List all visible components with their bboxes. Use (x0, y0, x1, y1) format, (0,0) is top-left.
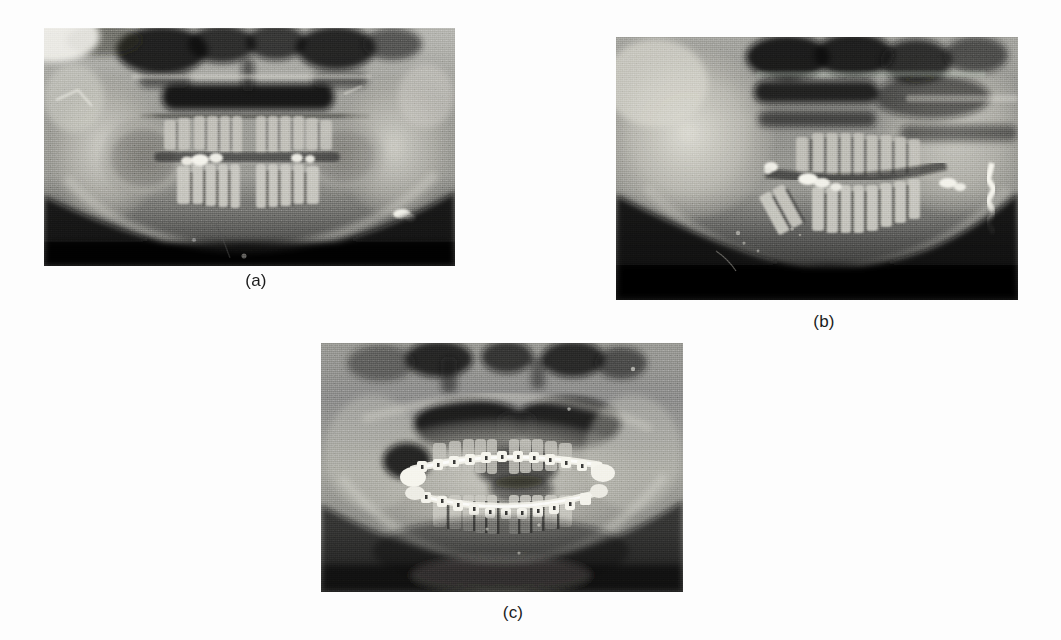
radiograph-panel-a (44, 28, 455, 266)
panel-caption-a: (a) (216, 271, 296, 291)
radiograph-image-b (616, 37, 1018, 300)
panel-caption-b: (b) (784, 312, 864, 332)
radiograph-graphic-a (44, 28, 455, 266)
radiograph-image-c (321, 343, 683, 592)
radiograph-panel-c (321, 343, 683, 592)
radiograph-panel-b (616, 37, 1018, 300)
panel-caption-c: (c) (473, 603, 553, 623)
radiograph-graphic-b (616, 37, 1018, 300)
radiograph-graphic-c (321, 343, 683, 592)
figure-root: (a) (0, 0, 1061, 640)
radiograph-image-a (44, 28, 455, 266)
